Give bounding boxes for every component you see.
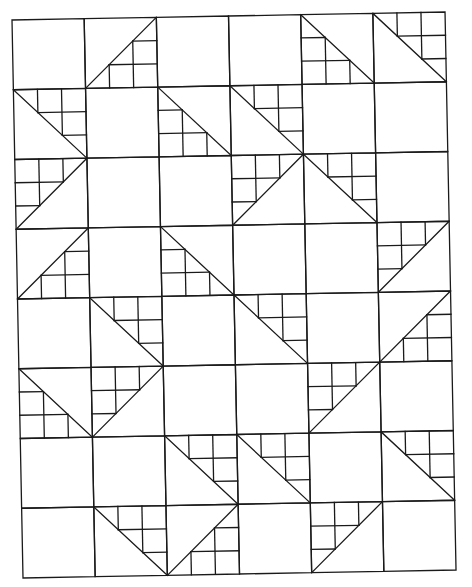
quilt-block-plain bbox=[159, 156, 233, 227]
staircase-line bbox=[406, 454, 454, 455]
staircase-line bbox=[159, 133, 207, 134]
block-diagonal bbox=[310, 502, 384, 573]
quilt-block-plain bbox=[22, 507, 96, 578]
quilt-block-staircase-top-left bbox=[15, 158, 89, 229]
quilt-block-plain bbox=[233, 224, 307, 295]
quilt-block-staircase-top-right bbox=[237, 433, 311, 504]
block-outline bbox=[238, 503, 312, 574]
block-diagonal bbox=[234, 294, 308, 365]
quilt-block-staircase-top-left bbox=[91, 366, 165, 437]
quilt-block-plain bbox=[309, 432, 383, 503]
quilt-block-staircase-top-right bbox=[13, 88, 87, 159]
quilt-block-plain bbox=[156, 16, 230, 87]
block-outline bbox=[233, 224, 307, 295]
quilt-block-staircase-bottom-right bbox=[166, 504, 240, 575]
block-outline bbox=[163, 365, 237, 436]
block-outline bbox=[87, 157, 161, 228]
block-diagonal bbox=[13, 88, 87, 159]
staircase-line bbox=[397, 35, 445, 36]
block-outline bbox=[229, 15, 303, 86]
staircase-line bbox=[308, 386, 356, 387]
staircase-line bbox=[403, 338, 451, 339]
block-outline bbox=[86, 87, 160, 158]
quilt-grid bbox=[12, 12, 456, 578]
block-diagonal bbox=[303, 153, 377, 224]
block-outline bbox=[22, 507, 96, 578]
block-diagonal bbox=[230, 84, 304, 155]
staircase-line bbox=[109, 64, 157, 65]
quilt-block-plain bbox=[374, 82, 448, 153]
block-diagonal bbox=[166, 504, 240, 575]
block-outline bbox=[374, 82, 448, 153]
quilt-block-plain bbox=[376, 152, 450, 223]
block-outline bbox=[306, 292, 380, 363]
block-outline bbox=[302, 83, 376, 154]
block-diagonal bbox=[160, 225, 234, 296]
quilt-block-plain bbox=[305, 223, 379, 294]
block-outline bbox=[376, 152, 450, 223]
block-outline bbox=[382, 500, 456, 571]
quilt-block-staircase-top-right bbox=[94, 506, 168, 577]
quilt-block-staircase-top-right bbox=[303, 153, 377, 224]
quilt-block-plain bbox=[18, 298, 92, 369]
staircase-line bbox=[254, 108, 302, 109]
block-outline bbox=[305, 223, 379, 294]
quilt-diagram bbox=[0, 0, 472, 587]
block-diagonal bbox=[231, 154, 305, 225]
staircase-line bbox=[161, 272, 209, 273]
staircase-line bbox=[261, 456, 309, 457]
quilt-block-staircase-bottom-right bbox=[378, 291, 452, 362]
staircase-line bbox=[377, 245, 425, 246]
block-outline bbox=[156, 16, 230, 87]
block-diagonal bbox=[377, 221, 451, 292]
block-outline bbox=[380, 361, 454, 432]
quilt-block-plain bbox=[12, 19, 86, 90]
quilt-block-plain bbox=[87, 157, 161, 228]
quilt-block-staircase-top-left bbox=[308, 362, 382, 433]
quilt-block-staircase-top-right bbox=[381, 431, 455, 502]
quilt-block-staircase-top-left bbox=[377, 221, 451, 292]
quilt-block-staircase-bottom-left bbox=[301, 13, 375, 84]
staircase-line bbox=[38, 112, 86, 113]
quilt-block-staircase-top-right bbox=[373, 12, 447, 83]
block-diagonal bbox=[15, 158, 89, 229]
block-outline bbox=[159, 156, 233, 227]
staircase-line bbox=[302, 60, 350, 61]
staircase-line bbox=[92, 390, 140, 391]
staircase-line bbox=[259, 317, 307, 318]
block-outline bbox=[235, 363, 309, 434]
block-diagonal bbox=[158, 86, 232, 157]
quilt-block-staircase-bottom-right bbox=[16, 228, 90, 299]
block-outline bbox=[20, 437, 94, 508]
staircase-line bbox=[191, 551, 239, 552]
quilt-block-staircase-bottom-right bbox=[84, 17, 158, 88]
block-diagonal bbox=[165, 435, 239, 506]
block-diagonal bbox=[308, 362, 382, 433]
block-diagonal bbox=[373, 12, 447, 83]
block-outline bbox=[92, 436, 166, 507]
quilt-block-staircase-top-right bbox=[165, 435, 239, 506]
quilt-block-plain bbox=[163, 365, 237, 436]
staircase-line bbox=[15, 182, 63, 183]
quilt-block-plain bbox=[20, 437, 94, 508]
staircase-line bbox=[41, 274, 89, 275]
quilt-block-plain bbox=[306, 292, 380, 363]
block-diagonal bbox=[378, 291, 452, 362]
block-outline bbox=[88, 227, 162, 298]
staircase-line bbox=[311, 525, 359, 526]
quilt-block-staircase-top-left bbox=[231, 154, 305, 225]
block-diagonal bbox=[19, 367, 93, 438]
block-diagonal bbox=[381, 431, 455, 502]
block-outline bbox=[309, 432, 383, 503]
block-outline bbox=[18, 298, 92, 369]
quilt-block-plain bbox=[238, 503, 312, 574]
quilt-block-staircase-top-right bbox=[230, 84, 304, 155]
block-outline bbox=[162, 295, 236, 366]
block-diagonal bbox=[94, 506, 168, 577]
staircase-line bbox=[118, 529, 166, 530]
block-diagonal bbox=[90, 296, 164, 367]
quilt-block-staircase-top-left bbox=[310, 502, 384, 573]
staircase-line bbox=[328, 176, 376, 177]
block-diagonal bbox=[84, 17, 158, 88]
quilt-block-plain bbox=[302, 83, 376, 154]
